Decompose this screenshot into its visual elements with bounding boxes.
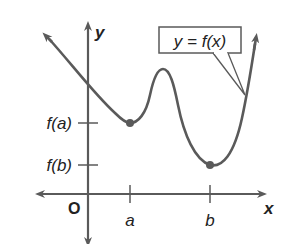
origin-label: O	[68, 200, 80, 217]
point-min-a	[126, 119, 134, 127]
y-tick-label-fb: f(b)	[47, 156, 73, 175]
x-tick-label-a: a	[125, 211, 134, 230]
callout-pointer	[213, 53, 245, 95]
function-graph: y = f(x) y x O a b f(a) f(b)	[0, 0, 290, 244]
x-tick-label-b: b	[205, 211, 214, 230]
callout-label: y = f(x)	[173, 32, 226, 51]
x-axis-label: x	[263, 199, 275, 218]
y-tick-label-fa: f(a)	[47, 114, 73, 133]
point-min-b	[206, 161, 214, 169]
y-axis-label: y	[94, 23, 106, 42]
